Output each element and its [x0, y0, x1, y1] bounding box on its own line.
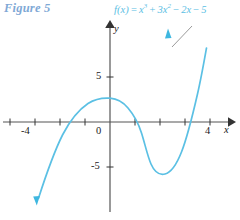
- y-tick-label-minus-five: -5: [91, 160, 100, 171]
- cubic-curve: [39, 48, 207, 198]
- curve-arrowhead-upper-right: [165, 29, 172, 39]
- x-axis-label: x: [224, 124, 229, 135]
- plot-area: [0, 0, 240, 220]
- x-tick-label-four: 4: [205, 125, 210, 136]
- curve-arrowhead-lower-left: [33, 196, 40, 206]
- y-axis-label: y: [114, 23, 119, 34]
- leader-line: [172, 26, 192, 47]
- x-tick-label-zero: 0: [96, 125, 101, 136]
- x-tick-label-minus-four: -4: [21, 125, 30, 136]
- figure-container: Figure 5 f(x)=x3+3x2−2x−5: [0, 0, 240, 220]
- y-tick-label-five: 5: [96, 70, 101, 81]
- x-axis-arrowhead: [228, 117, 236, 127]
